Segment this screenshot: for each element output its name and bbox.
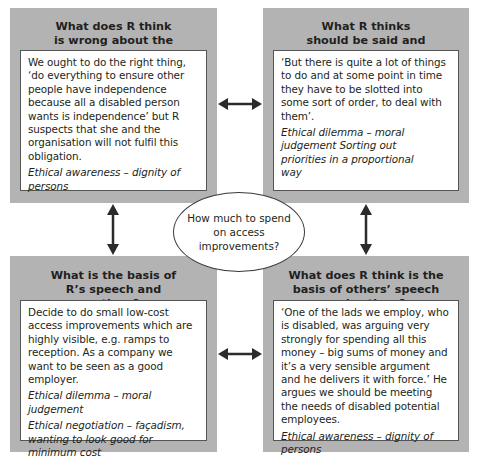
double-arrow-icon bbox=[107, 204, 119, 255]
ethical-note: Ethical awareness – dignity of persons bbox=[281, 430, 451, 457]
quadrant-body: Decide to do small low-cost access impro… bbox=[20, 300, 207, 441]
quadrant-body-text: ‘But there is quite a lot of things to d… bbox=[281, 56, 451, 123]
ethical-note: Ethical dilemma – moral judgement bbox=[28, 389, 199, 416]
quadrant-body: We ought to do the right thing, ‘do ever… bbox=[20, 50, 207, 191]
double-arrow-icon bbox=[360, 204, 372, 255]
ethical-note: Ethical awareness – dignity of persons bbox=[28, 166, 199, 193]
quadrant-body-text: We ought to do the right thing, ‘do ever… bbox=[28, 56, 199, 163]
quadrant-body-text: ‘One of the lads we employ, who is disab… bbox=[281, 306, 451, 427]
central-question-text: How much to spend on access improvements… bbox=[183, 211, 295, 253]
quadrant-basis-of-r-actions: What is the basis of R’s speech and acti… bbox=[10, 256, 217, 452]
ethical-note: Ethical dilemma – moral judgement Sortin… bbox=[281, 126, 451, 180]
double-arrow-icon bbox=[218, 98, 262, 110]
quadrant-body-text: Decide to do small low-cost access impro… bbox=[28, 306, 199, 386]
double-arrow-icon bbox=[218, 348, 262, 360]
quadrant-wrong-about-issue: What does R think is wrong about the iss… bbox=[10, 8, 217, 203]
quadrant-body: ‘But there is quite a lot of things to d… bbox=[273, 50, 459, 191]
quadrant-should-be-said-and-done: What R thinks should be said and done ‘B… bbox=[263, 8, 469, 203]
central-question-ellipse: How much to spend on access improvements… bbox=[173, 192, 305, 272]
quadrant-body: ‘One of the lads we employ, who is disab… bbox=[273, 300, 459, 441]
ethical-note: Ethical negotiation – façadism, wanting … bbox=[28, 419, 199, 457]
quadrant-basis-of-others-actions: What does R think is the basis of others… bbox=[263, 256, 469, 452]
